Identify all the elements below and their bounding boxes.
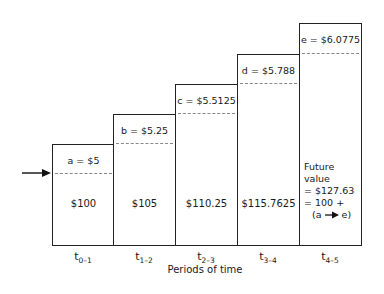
entry-arrow-icon [20, 167, 54, 179]
increment-label: b = $5.25 [114, 125, 175, 136]
period-box-3: d = $5.788 $115.7625 [237, 54, 300, 246]
future-value-line3: = 100 + [304, 197, 361, 209]
period-label-2: t2–3 [175, 250, 237, 265]
dashed-divider [116, 143, 173, 144]
sum-start: (a [312, 209, 322, 221]
period-box-4: e = $6.0775 Future value = $127.63 = 100… [299, 23, 362, 246]
future-value-text: Future value = $127.63 = 100 + (a e) [304, 161, 361, 221]
period-label-0: t0–1 [52, 250, 114, 265]
dashed-divider [240, 83, 297, 84]
dashed-divider [302, 53, 359, 54]
amount-label: $100 [53, 198, 114, 209]
future-value-line2: = $127.63 [304, 185, 361, 197]
dashed-divider [178, 113, 235, 114]
dashed-divider [55, 173, 112, 174]
arrow-right-icon [324, 211, 340, 219]
period-box-1: b = $5.25 $105 [113, 114, 176, 246]
amount-label: $115.7625 [238, 198, 299, 209]
increment-label: c = $5.5125 [176, 95, 237, 106]
x-axis-label: Periods of time [0, 264, 384, 275]
increment-label: d = $5.788 [238, 65, 299, 76]
amount-label: $110.25 [176, 198, 237, 209]
period-box-0: a = $5 $100 [52, 144, 115, 246]
period-label-3: t3–4 [237, 250, 299, 265]
sum-end: e) [342, 209, 352, 221]
period-label-1: t1–2 [113, 250, 175, 265]
period-label-4: t4–5 [299, 250, 361, 265]
future-value-line4: (a e) [304, 209, 361, 221]
period-box-2: c = $5.5125 $110.25 [175, 84, 238, 246]
increment-label: e = $6.0775 [300, 34, 361, 45]
increment-label: a = $5 [53, 155, 114, 166]
future-value-line1: Future value [304, 161, 361, 185]
amount-label: $105 [114, 198, 175, 209]
